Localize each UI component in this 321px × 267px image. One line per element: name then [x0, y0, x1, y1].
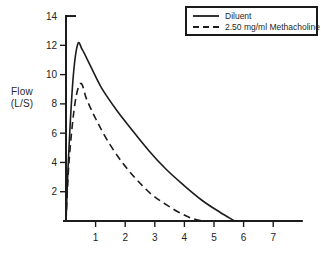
flow-volume-figure: 24681012141234567 Flow (L/S) Diluent 2.5… — [0, 0, 321, 267]
y-tick-label: 8 — [51, 98, 57, 109]
series-line-2-50-mg-ml-methacholine — [66, 83, 202, 221]
legend-label-diluent: Diluent — [225, 11, 251, 21]
y-tick-label: 4 — [51, 157, 57, 168]
y-axis-label-line1: Flow — [3, 86, 41, 98]
x-tick-label: 6 — [241, 232, 247, 243]
x-tick-label: 2 — [122, 232, 128, 243]
dashed-line-sample — [192, 23, 220, 31]
y-tick-label: 10 — [46, 69, 58, 80]
y-tick-label: 14 — [46, 11, 58, 22]
legend-label-methacholine: 2.50 mg/ml Methacholine — [225, 22, 320, 32]
y-tick-label: 6 — [51, 128, 57, 139]
x-tick-label: 3 — [152, 232, 158, 243]
legend: Diluent 2.50 mg/ml Methacholine — [185, 6, 318, 36]
solid-line-sample — [192, 12, 220, 20]
x-tick-label: 4 — [182, 232, 188, 243]
y-axis-label-line2: (L/S) — [3, 98, 41, 110]
legend-item-diluent: Diluent — [192, 10, 313, 21]
y-tick-label: 12 — [46, 40, 58, 51]
y-tick-label: 2 — [51, 186, 57, 197]
legend-item-methacholine: 2.50 mg/ml Methacholine — [192, 21, 313, 32]
flow-volume-plot: 24681012141234567 — [0, 0, 321, 267]
x-tick-label: 5 — [211, 232, 217, 243]
x-tick-label: 7 — [270, 232, 276, 243]
y-axis-label: Flow (L/S) — [3, 86, 41, 109]
x-tick-label: 1 — [93, 232, 99, 243]
